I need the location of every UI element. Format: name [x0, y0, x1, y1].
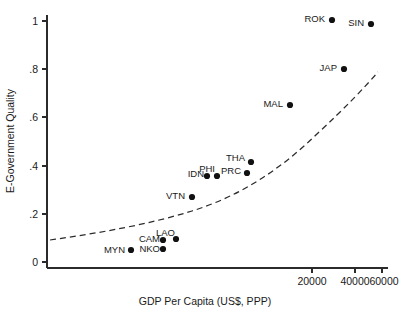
point-label-myn: MYN: [104, 244, 125, 255]
scatter-plot: 1 .8 .6 .4 .2 0 20000 40000 60000 GDP Pe…: [0, 0, 406, 318]
point-label-jap: JAP: [320, 62, 337, 73]
point-marker-jap: [341, 66, 347, 72]
y-tick-label-04: .4: [29, 160, 38, 172]
point-marker-idn: [204, 173, 210, 179]
y-tick-label-02: .2: [29, 208, 38, 220]
x-tick-label-40000: 40000: [340, 275, 369, 287]
point-marker-cam: [160, 237, 166, 243]
x-tick-label-60000: 60000: [369, 275, 398, 287]
point-label-sin: SIN: [348, 17, 364, 28]
point-marker-nko: [160, 246, 166, 252]
point-label-tha: THA: [226, 152, 246, 163]
y-tick-label-08: .8: [29, 63, 38, 75]
chart-background: [0, 0, 406, 318]
point-marker-sin: [368, 21, 374, 27]
point-marker-prc: [244, 170, 250, 176]
point-marker-vtn: [189, 194, 195, 200]
x-axis-title: GDP Per Capita (US$, PPP): [139, 295, 271, 307]
point-label-prc: PRC: [221, 165, 241, 176]
point-marker-myn: [128, 247, 134, 253]
point-marker-lao: [173, 236, 179, 242]
chart-figure: 1 .8 .6 .4 .2 0 20000 40000 60000 GDP Pe…: [0, 0, 406, 318]
y-tick-label-06: .6: [29, 111, 38, 123]
point-label-idn: IDN: [188, 168, 205, 179]
x-tick-label-20000: 20000: [297, 275, 326, 287]
point-marker-rok: [329, 17, 335, 23]
point-marker-phi: [214, 173, 220, 179]
point-label-rok: ROK: [304, 13, 325, 24]
y-tick-label-0: 0: [32, 256, 38, 268]
point-marker-tha: [248, 159, 254, 165]
point-label-mal: MAL: [263, 98, 283, 109]
point-label-vtn: VTN: [166, 190, 185, 201]
y-tick-label-1: 1: [32, 15, 38, 27]
x-axis-tick-labels: 20000 40000 60000: [297, 275, 398, 287]
point-marker-mal: [287, 102, 293, 108]
point-label-nko: NKO: [139, 243, 160, 254]
y-axis-title: E-Government Quality: [4, 88, 16, 193]
